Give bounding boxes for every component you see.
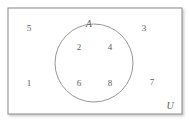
- element-label: 3: [142, 24, 147, 33]
- element-label: 6: [77, 79, 82, 88]
- venn-diagram-canvas: [0, 0, 190, 124]
- element-label: 1: [27, 79, 32, 88]
- universal-set-label: U: [166, 101, 173, 111]
- element-label: 8: [108, 79, 113, 88]
- set-a-label: A: [86, 20, 92, 30]
- venn-diagram-figure: A U 5 3 2 4 6 8 1 7: [0, 0, 190, 124]
- element-label: 5: [27, 24, 32, 33]
- element-label: 4: [108, 43, 113, 52]
- element-label: 2: [77, 43, 82, 52]
- element-label: 7: [150, 78, 155, 87]
